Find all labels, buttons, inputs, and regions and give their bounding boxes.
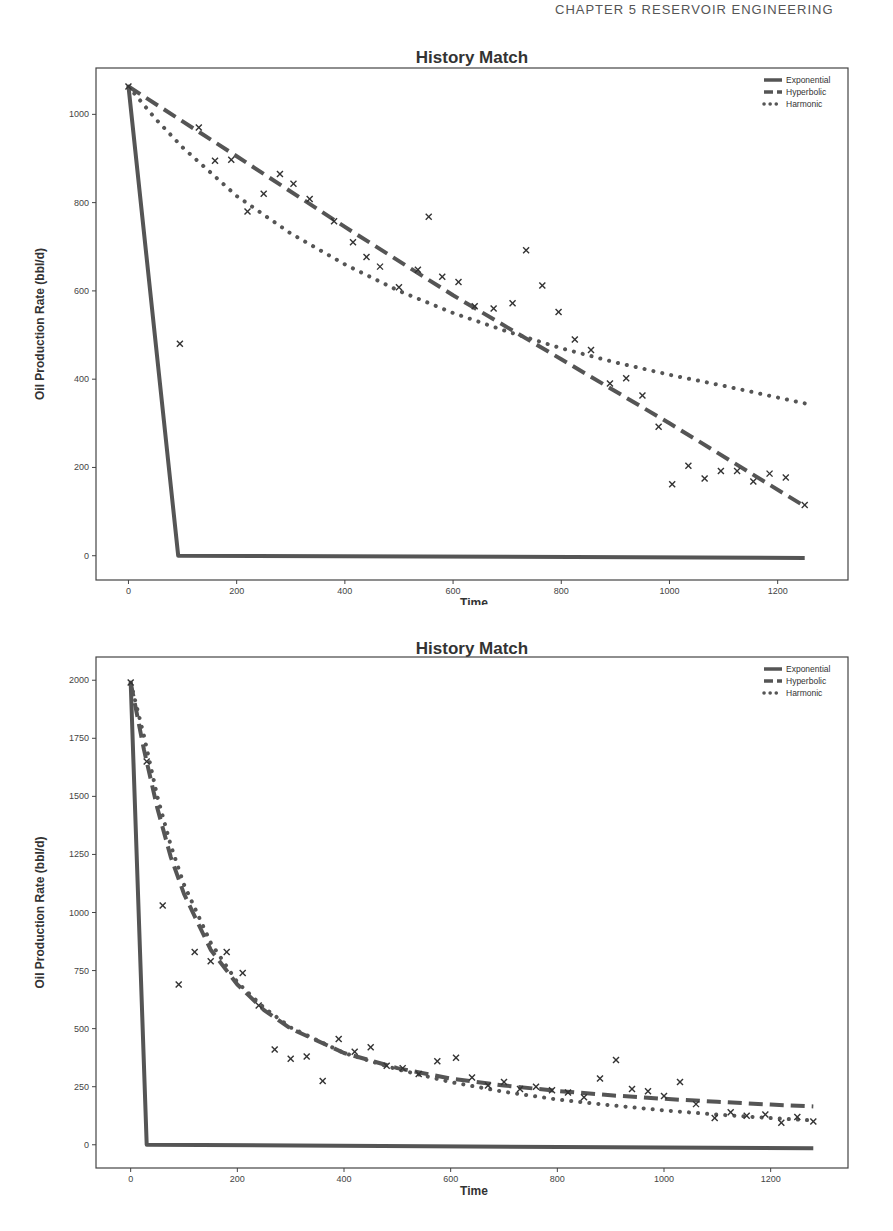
plot-area xyxy=(125,84,807,558)
y-tick-label: 500 xyxy=(74,1024,89,1034)
data-point-x-marker xyxy=(288,1056,294,1062)
x-tick-label: 400 xyxy=(337,586,352,596)
data-point-x-marker xyxy=(160,903,166,909)
legend-label-exponential: Exponential xyxy=(786,664,831,674)
data-point-x-marker xyxy=(261,191,267,197)
data-point-x-marker xyxy=(539,283,545,289)
legend-label-hyperbolic: Hyperbolic xyxy=(786,87,827,97)
data-point-x-marker xyxy=(277,171,283,177)
chart-title: History Match xyxy=(416,639,528,658)
series-harmonic-line xyxy=(131,683,814,1121)
x-tick-label: 200 xyxy=(230,1174,245,1184)
y-tick-label: 1000 xyxy=(69,109,89,119)
data-point-x-marker xyxy=(244,208,250,214)
data-point-x-marker xyxy=(656,424,662,430)
data-point-x-marker xyxy=(556,309,562,315)
data-point-x-marker xyxy=(455,279,461,285)
y-tick-label: 0 xyxy=(84,551,89,561)
data-point-x-marker xyxy=(290,181,296,187)
data-point-x-marker xyxy=(377,264,383,270)
chart-title: History Match xyxy=(416,48,528,67)
plot-area xyxy=(128,680,817,1149)
x-axis-label: Time xyxy=(460,1184,488,1198)
data-point-x-marker xyxy=(533,1084,539,1090)
plot-frame xyxy=(96,68,848,580)
plot-frame xyxy=(96,657,848,1168)
y-axis-label: Oil Production Rate (bbl/d) xyxy=(33,248,47,400)
history-match-chart-1: History Match020040060080010001200020040… xyxy=(0,40,893,605)
data-point-x-marker xyxy=(469,1074,475,1080)
data-point-x-marker xyxy=(368,1044,374,1050)
y-tick-label: 2000 xyxy=(69,675,89,685)
y-tick-label: 250 xyxy=(74,1082,89,1092)
series-exponential-line xyxy=(129,87,805,558)
data-point-x-marker xyxy=(588,347,594,353)
data-point-x-marker xyxy=(607,381,613,387)
x-tick-label: 0 xyxy=(128,1174,133,1184)
data-point-x-marker xyxy=(639,393,645,399)
x-tick-label: 600 xyxy=(446,586,461,596)
legend-label-exponential: Exponential xyxy=(786,75,831,85)
y-tick-label: 400 xyxy=(74,374,89,384)
data-point-x-marker xyxy=(434,1058,440,1064)
data-point-x-marker xyxy=(304,1054,310,1060)
data-point-x-marker xyxy=(350,239,356,245)
legend-label-hyperbolic: Hyperbolic xyxy=(786,676,827,686)
data-point-x-marker xyxy=(224,949,230,955)
data-point-x-marker xyxy=(212,158,218,164)
data-point-x-marker xyxy=(623,375,629,381)
data-point-x-marker xyxy=(661,1093,667,1099)
data-point-x-marker xyxy=(629,1086,635,1092)
data-point-x-marker xyxy=(734,468,740,474)
data-point-x-marker xyxy=(439,274,445,280)
x-axis-label: Time xyxy=(460,596,488,605)
data-point-x-marker xyxy=(176,982,182,988)
data-point-x-marker xyxy=(645,1088,651,1094)
data-point-x-marker xyxy=(802,502,808,508)
data-point-x-marker xyxy=(272,1047,278,1053)
data-point-x-marker xyxy=(669,481,675,487)
data-point-x-marker xyxy=(364,254,370,260)
y-tick-label: 800 xyxy=(74,198,89,208)
legend-label-harmonic: Harmonic xyxy=(786,99,823,109)
x-tick-label: 1200 xyxy=(768,586,788,596)
y-tick-label: 1000 xyxy=(69,908,89,918)
history-match-chart-2: History Match020040060080010001200025050… xyxy=(0,630,893,1200)
y-tick-label: 1500 xyxy=(69,791,89,801)
data-point-x-marker xyxy=(307,196,313,202)
data-point-x-marker xyxy=(572,336,578,342)
data-point-x-marker xyxy=(810,1119,816,1125)
series-hyperbolic-line xyxy=(131,683,814,1107)
data-point-x-marker xyxy=(523,247,529,253)
data-point-x-marker xyxy=(750,479,756,485)
data-point-x-marker xyxy=(778,1120,784,1126)
data-point-x-marker xyxy=(685,463,691,469)
y-tick-label: 600 xyxy=(74,286,89,296)
data-point-x-marker xyxy=(240,970,246,976)
y-tick-label: 1250 xyxy=(69,849,89,859)
legend: ExponentialHyperbolicHarmonic xyxy=(764,664,831,698)
y-axis-label: Oil Production Rate (bbl/d) xyxy=(33,837,47,989)
x-tick-label: 800 xyxy=(554,586,569,596)
running-head: CHAPTER 5 RESERVOIR ENGINEERING xyxy=(555,2,834,17)
data-point-x-marker xyxy=(762,1112,768,1118)
data-point-x-marker xyxy=(767,471,773,477)
data-point-x-marker xyxy=(426,214,432,220)
series-harmonic-line xyxy=(129,87,805,404)
data-point-x-marker xyxy=(728,1109,734,1115)
data-point-x-marker xyxy=(613,1057,619,1063)
chart-2-svg: History Match020040060080010001200025050… xyxy=(0,630,893,1200)
y-tick-label: 1750 xyxy=(69,733,89,743)
data-point-x-marker xyxy=(718,468,724,474)
data-point-x-marker xyxy=(228,157,234,163)
data-point-x-marker xyxy=(208,958,214,964)
series-exponential-line xyxy=(131,683,814,1149)
x-tick-label: 1200 xyxy=(761,1174,781,1184)
data-point-x-marker xyxy=(336,1036,342,1042)
x-tick-label: 400 xyxy=(336,1174,351,1184)
y-tick-label: 0 xyxy=(84,1140,89,1150)
x-tick-label: 600 xyxy=(443,1174,458,1184)
y-tick-label: 200 xyxy=(74,462,89,472)
x-tick-label: 800 xyxy=(550,1174,565,1184)
data-point-x-marker xyxy=(177,341,183,347)
